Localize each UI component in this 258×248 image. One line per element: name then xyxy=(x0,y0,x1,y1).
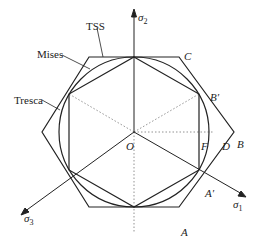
sigma3-axis xyxy=(24,132,134,212)
point-a-prime-label: A′ xyxy=(204,187,215,199)
sigma3-label: σ3 xyxy=(24,212,33,227)
point-d-label: D xyxy=(221,140,230,152)
mises-label: Mises xyxy=(37,48,63,60)
point-b-prime-label: B′ xyxy=(210,91,220,103)
point-f-label: F xyxy=(200,140,208,152)
point-o-label: O xyxy=(126,140,134,152)
diagram-canvas: TSS Mises Tresca σ2 σ1 σ3 O C B′ B D F A… xyxy=(0,0,258,248)
sigma1-label: σ1 xyxy=(233,198,242,213)
tss-label: TSS xyxy=(86,20,105,32)
point-a-label: A xyxy=(180,226,188,238)
tresca-leader xyxy=(42,100,60,110)
sigma2-label: σ2 xyxy=(138,11,147,26)
point-b-label: B xyxy=(237,138,244,150)
sigma2-arrow-icon xyxy=(132,9,137,17)
tss-leader xyxy=(97,28,103,57)
tresca-label: Tresca xyxy=(14,94,43,106)
yield-criteria-diagram: TSS Mises Tresca σ2 σ1 σ3 O C B′ B D F A… xyxy=(0,0,258,248)
point-c-label: C xyxy=(184,50,192,62)
